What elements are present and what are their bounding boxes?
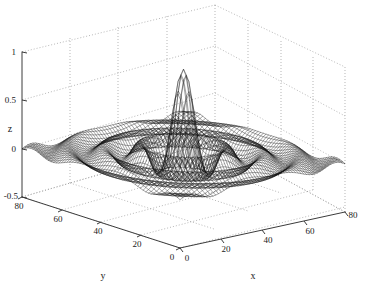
y-axis-label: y xyxy=(101,270,106,281)
z-tick-label-neg0.5: -0.5 xyxy=(4,191,18,201)
y-tick-label-80: 80 xyxy=(15,201,24,211)
z-tick-label-0: 0 xyxy=(12,144,17,154)
figure-canvas: 1 0.5 0 -0.5 80 60 40 20 0 0 20 40 60 80… xyxy=(0,0,368,300)
x-tick-label-20: 20 xyxy=(222,244,231,254)
z-tick-label-1: 1 xyxy=(12,47,17,57)
z-axis-label: z xyxy=(8,123,12,134)
x-tick-label-40: 40 xyxy=(264,235,273,245)
x-tick-label-60: 60 xyxy=(306,226,315,236)
y-tick-label-40: 40 xyxy=(94,226,103,236)
x-axis-label: x xyxy=(251,270,256,281)
z-tick-label-0.5: 0.5 xyxy=(5,95,16,105)
x-tick-label-80: 80 xyxy=(349,210,358,220)
y-tick-label-0: 0 xyxy=(170,252,175,262)
grid-lines xyxy=(22,5,345,248)
x-tick-label-0: 0 xyxy=(185,253,190,263)
y-tick-label-60: 60 xyxy=(54,214,63,224)
y-tick-label-20: 20 xyxy=(133,239,142,249)
mesh-surface xyxy=(22,69,345,200)
